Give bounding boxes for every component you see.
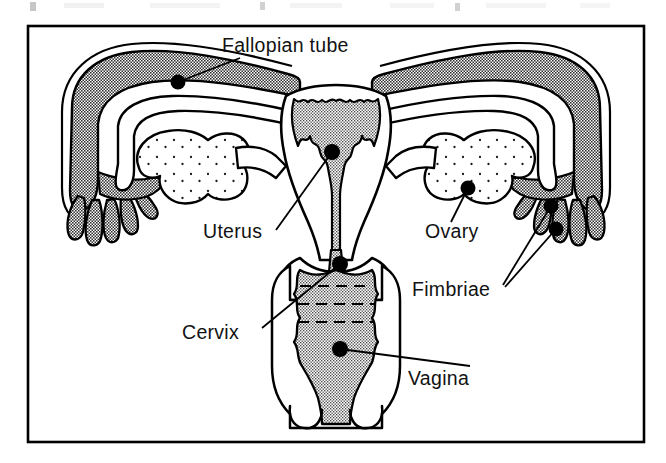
label-vagina: Vagina [408,367,469,389]
label-cervix: Cervix [182,321,239,343]
label-ovary: Ovary [425,220,479,242]
marker-fimbriae-2 [549,222,564,237]
marker-cervix [332,256,348,272]
label-fimbriae: Fimbriae [412,278,490,300]
diagram-canvas: Fallopian tube Uterus Ovary Fimbriae Cer… [0,0,666,463]
marker-fimbriae-1 [544,199,559,214]
label-fallopian-tube: Fallopian tube [222,34,349,56]
marker-vagina [332,341,348,357]
label-uterus: Uterus [203,220,262,242]
marker-fallopian-tube [171,75,186,90]
marker-uterus [324,144,340,160]
anatomical-diagram-figure: Fallopian tube Uterus Ovary Fimbriae Cer… [0,0,666,463]
marker-ovary [461,181,476,196]
